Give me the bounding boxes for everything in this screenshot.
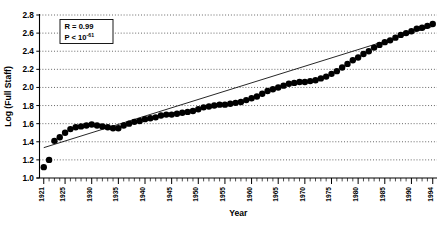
data-point [307,78,313,84]
y-axis-title: Log (Full Staff) [3,66,13,127]
data-point [46,157,52,163]
data-point [99,123,105,129]
x-tick-label: 1925 [59,187,66,202]
data-point [200,104,206,110]
data-point [344,61,350,67]
data-point [131,119,137,125]
data-point [355,54,361,60]
data-point [339,64,345,70]
data-point [73,124,79,130]
x-tick-label: 1975 [325,187,332,202]
x-tick-label: 1965 [272,187,279,202]
data-point [179,110,185,116]
x-tick-label: 1945 [166,187,173,202]
x-tick-label: 1940 [139,187,146,202]
annotation-p-exponent: -61 [87,32,95,38]
data-point [105,124,111,130]
data-point [62,130,68,136]
x-axis-tick-labels: 1921192519301935194019451950195519601965… [38,187,434,202]
data-point [89,121,95,127]
y-tick-label: 1.8 [22,101,34,111]
x-tick-label: 1970 [299,187,306,202]
chart-figure: 1.01.21.41.61.82.02.22.42.62.8 192119251… [0,0,444,229]
data-point [142,116,148,122]
y-tick-label: 1.6 [22,119,34,129]
x-tick-label: 1980 [352,187,359,202]
y-tick-label: 1.4 [22,137,34,147]
y-tick-label: 2.8 [22,10,34,20]
y-tick-label: 1.2 [22,155,34,165]
annotation-r-value: R = 0.99 [65,22,94,31]
x-tick-label: 1935 [112,187,119,202]
data-point [291,80,297,86]
data-point [430,21,436,27]
data-point [168,111,174,117]
data-point [51,138,57,144]
y-tick-label: 1.0 [22,173,34,183]
data-point [57,134,63,140]
x-tick-label: 1921 [38,187,45,202]
data-point [302,79,308,85]
x-tick-label: 1930 [86,187,93,202]
x-tick-label: 1990 [405,187,412,202]
x-tick-label: 1960 [246,187,253,202]
data-point [174,111,180,117]
x-tick-label: 1985 [379,187,386,202]
data-point [232,100,238,106]
data-point [41,164,47,170]
y-tick-label: 2.2 [22,64,34,74]
data-point [414,25,420,31]
statistics-annotation-box: R = 0.99P < 10-61 [60,20,113,44]
x-tick-label: 1955 [219,187,226,202]
data-point [83,122,89,128]
data-point [94,122,100,128]
data-point [78,123,84,129]
data-point [334,68,340,74]
data-point [158,112,164,118]
data-point [147,115,153,121]
data-point [222,101,228,107]
data-point [211,102,217,108]
data-point [206,103,212,109]
y-axis-tick-labels: 1.01.21.41.61.82.02.22.42.62.8 [22,10,34,183]
x-tick-label: 1994 [427,187,434,202]
y-tick-label: 2.0 [22,82,34,92]
x-tick-label: 1950 [192,187,199,202]
data-point [184,109,190,115]
y-tick-label: 2.6 [22,28,34,38]
data-point [227,101,233,107]
x-axis-ticks [44,178,433,184]
y-tick-label: 2.4 [22,46,34,56]
data-point [366,48,372,54]
data-point [286,81,292,87]
x-axis-title: Year [229,208,248,218]
